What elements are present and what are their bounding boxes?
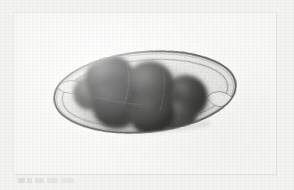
micrograph-scene (14, 13, 276, 174)
specimen-illustration (14, 13, 276, 174)
screenshot-root (0, 0, 294, 190)
micrograph-plate (14, 13, 276, 174)
figure-caption (18, 178, 74, 183)
